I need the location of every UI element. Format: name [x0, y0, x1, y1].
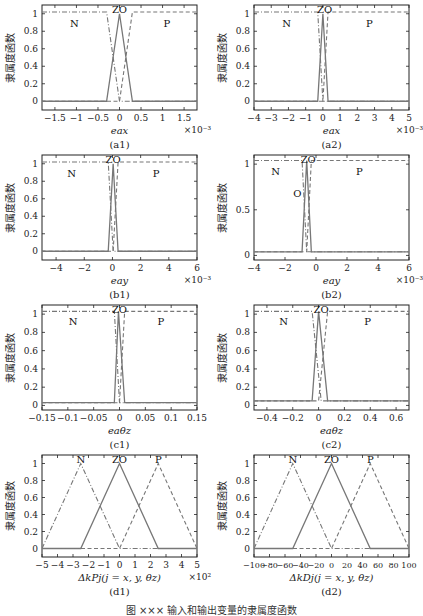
plot-svg-d2: −100−80−60−40−2002040608010000.20.40.60.…	[212, 450, 423, 602]
x-axis-label: ΔkDj(j = x, y, θz)	[288, 572, 373, 583]
membership-label-zo: ZO	[106, 154, 121, 165]
y-tick-label: 0	[244, 400, 250, 410]
x-tick-label: −2	[82, 560, 95, 570]
membership-label-p: P	[367, 454, 374, 465]
axes-frame	[42, 155, 197, 260]
y-tick-label: 0.8	[24, 176, 39, 186]
membership-label-p: P	[153, 168, 160, 179]
x-tick-label: 2	[138, 263, 144, 273]
x-axis-label: eax	[323, 125, 341, 136]
y-tick-label: 0	[244, 96, 250, 106]
y-tick-label: 0.4	[236, 364, 251, 374]
series-zo	[42, 311, 197, 402]
membership-label-n: N	[288, 454, 297, 465]
membership-label-p: P	[356, 166, 363, 177]
subplot-label: (a2)	[321, 139, 341, 150]
x-axis-multiplier: ×10⁻³	[184, 275, 212, 285]
x-tick-label: 1	[160, 113, 166, 123]
x-tick-label: −0.4	[256, 413, 278, 423]
y-tick-label: 1	[244, 309, 250, 319]
y-tick-label: 1	[244, 9, 250, 19]
y-axis-label: 隶属度函数	[4, 183, 16, 233]
x-tick-label: −1	[97, 560, 110, 570]
x-tick-label: 3	[163, 560, 169, 570]
subplot-b1: −4−2024600.20.40.60.81隶属度函数NZOPeay×10⁻³(…	[0, 150, 211, 300]
y-tick-label: 0.8	[236, 476, 251, 486]
y-tick-label: 0.6	[236, 346, 251, 356]
plot-svg-c2: −0.4−0.200.20.40.600.20.40.60.81隶属度函数NZO…	[212, 300, 423, 450]
subplot-a1: −1.5−1−0.500.511.500.20.40.60.81隶属度函数NZO…	[0, 0, 211, 150]
axes-frame	[254, 305, 409, 410]
x-tick-label: −0.2	[282, 413, 304, 423]
x-tick-label: 80	[388, 561, 398, 570]
series-zo	[42, 464, 197, 549]
subplot-c2: −0.4−0.200.20.40.600.20.40.60.81隶属度函数NZO…	[212, 300, 423, 450]
x-tick-label: −0.5	[87, 113, 109, 123]
y-tick-label: 0.2	[24, 79, 38, 89]
subplot-d2: −100−80−60−40−2002040608010000.20.40.60.…	[212, 450, 423, 602]
x-tick-label: 1	[132, 560, 138, 570]
y-tick-label: 0.8	[24, 26, 39, 36]
axes-frame	[42, 455, 197, 557]
plot-svg-b2: −4−2024600.51隶属度函数NZOPOeay×10⁻³(b2)	[212, 150, 423, 300]
series-n	[254, 12, 409, 101]
x-tick-label: 6	[406, 263, 412, 273]
y-tick-label: 0.6	[24, 44, 39, 54]
series-zo	[254, 311, 409, 400]
x-tick-label: −1.5	[44, 113, 66, 123]
x-tick-label: 0	[117, 560, 123, 570]
x-tick-label: 2	[344, 263, 350, 273]
x-tick-label: 0.05	[135, 413, 155, 423]
y-tick-label: 0.6	[24, 194, 39, 204]
y-tick-label: 0.8	[236, 327, 251, 337]
y-tick-label: 0.6	[24, 346, 39, 356]
x-tick-label: −2	[278, 263, 291, 273]
subplot-label: (a1)	[109, 139, 129, 150]
membership-label-p: P	[364, 316, 371, 327]
x-tick-label: −40	[292, 561, 309, 570]
x-axis-multiplier: ×10²	[188, 572, 211, 582]
x-tick-label: −4	[49, 263, 63, 273]
y-tick-label: 0.4	[24, 364, 39, 374]
x-tick-label: −0.05	[80, 413, 108, 423]
series-p	[254, 12, 409, 101]
axes-frame	[254, 455, 409, 557]
y-tick-label: 0.6	[236, 44, 251, 54]
x-tick-label: −4	[51, 560, 65, 570]
series-zo	[42, 164, 197, 252]
y-tick-label: 0.6	[24, 493, 39, 503]
y-axis-label: 隶属度函数	[216, 481, 228, 531]
y-tick-label: 0.6	[236, 493, 251, 503]
series-zo	[254, 464, 409, 549]
x-tick-label: 0	[117, 413, 123, 423]
y-tick-label: 0.5	[236, 205, 251, 215]
x-tick-label: −0.15	[28, 413, 56, 423]
x-tick-label: 0.6	[389, 413, 404, 423]
x-tick-label: 0.4	[363, 413, 378, 423]
y-tick-label: 1	[32, 9, 38, 19]
series-p	[42, 464, 197, 549]
x-tick-label: 0	[110, 263, 116, 273]
y-tick-label: 0	[32, 96, 38, 106]
y-tick-label: 0.4	[236, 61, 251, 71]
y-tick-label: 0.4	[24, 510, 39, 520]
y-axis-label: 隶属度函数	[4, 333, 16, 383]
y-tick-label: 0.2	[236, 79, 250, 89]
series-n	[42, 12, 197, 101]
plot-svg-d1: −5−4−3−2−101234500.20.40.60.81隶属度函数NZOPΔ…	[0, 450, 211, 602]
x-tick-label: 0	[329, 561, 334, 570]
membership-label-zo: ZO	[112, 4, 127, 15]
plot-svg-c1: −0.15−0.1−0.0500.050.10.1500.20.40.60.81…	[0, 300, 211, 450]
membership-label-p: P	[155, 454, 162, 465]
x-tick-label: 4	[179, 560, 185, 570]
series-p	[254, 464, 409, 549]
y-tick-label: 0	[244, 250, 250, 260]
membership-label-n: N	[271, 166, 280, 177]
subplot-label: (b2)	[321, 289, 342, 300]
y-axis-label: 隶属度函数	[216, 183, 228, 233]
x-tick-label: 5	[194, 560, 200, 570]
membership-label-zo: ZO	[301, 154, 316, 165]
plot-svg-a1: −1.5−1−0.500.511.500.20.40.60.81隶属度函数NZO…	[0, 0, 211, 150]
x-tick-label: −20	[308, 561, 325, 570]
x-tick-label: −3	[265, 113, 279, 123]
